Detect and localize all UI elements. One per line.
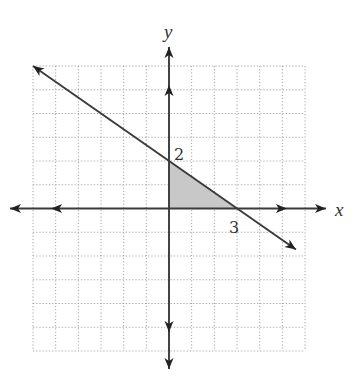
coordinate-graph: y x 2 3 [0, 0, 357, 384]
x-axis-label: x [334, 199, 344, 220]
boundary-line [33, 66, 296, 250]
axes [10, 47, 326, 369]
boundary-arrow-start-icon [33, 66, 45, 76]
boundary-lines [33, 66, 296, 250]
boundary-arrow-end-icon [284, 240, 296, 250]
y-axis-label: y [162, 21, 173, 42]
y-intercept-label: 2 [174, 145, 184, 164]
x-intercept-label: 3 [229, 218, 239, 237]
